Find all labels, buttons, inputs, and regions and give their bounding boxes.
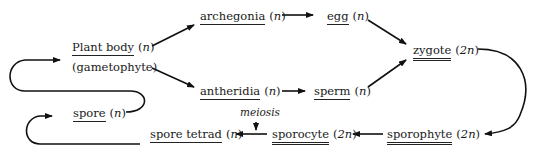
node-sporocyte: sporocyte(2n) — [272, 127, 357, 145]
node-zygote: zygote(2n) — [413, 43, 479, 61]
arrow-sperm-zygote — [368, 60, 406, 87]
node-sporophyte: sporophyte(2n) — [387, 127, 480, 145]
node-gametophyte-label: (gametophyte) — [72, 60, 157, 74]
arrow-plantbody-antheridia — [152, 68, 194, 87]
meiosis-label: meiosis — [240, 106, 280, 118]
node-sperm: sperm(n) — [314, 84, 371, 100]
node-egg: egg(n) — [327, 9, 369, 25]
arrow-egg-zygote — [368, 20, 406, 44]
node-antheridia: antheridia(n) — [200, 84, 281, 100]
node-spore-tetrad: spore tetrad(n) — [150, 127, 242, 143]
node-archegonia: archegonia(n) — [200, 9, 286, 25]
arrow-zygote-sporophyte — [478, 49, 526, 134]
node-spore: spore(n) — [73, 106, 126, 122]
arrow-plantbody-archegonia — [152, 25, 194, 46]
node-plant-body: Plant body(n) — [72, 40, 155, 56]
